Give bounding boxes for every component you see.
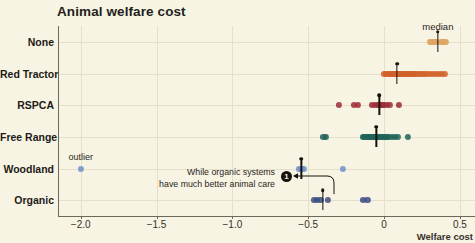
callout-line-2: have much better animal care [155, 179, 275, 191]
y-axis-tick-label: RSPCA [0, 99, 54, 111]
x-axis-tick-label: −2.0 [71, 219, 91, 230]
median-marker [377, 95, 381, 115]
callout-text: While organic systems have much better a… [155, 167, 275, 191]
chart-container: Animal welfare cost NoneRed TractorRSPCA… [0, 0, 475, 243]
median-line [396, 64, 397, 84]
median-dot [436, 30, 440, 34]
y-gridline [58, 105, 475, 106]
x-gridline [460, 26, 461, 216]
y-gridline [58, 137, 475, 138]
median-marker [436, 32, 440, 52]
median-marker [299, 159, 303, 179]
median-marker [374, 127, 378, 147]
y-axis-tick-label: Organic [0, 194, 54, 206]
y-axis-line [58, 26, 59, 216]
median-dot [395, 62, 399, 66]
y-gridline [58, 42, 475, 43]
median-dot [321, 188, 325, 192]
y-axis-tick-label: None [0, 36, 54, 48]
median-line [437, 32, 438, 52]
outlier-annotation-label: outlier [68, 152, 93, 162]
x-axis-tick-label: −1.0 [223, 219, 243, 230]
y-axis-tick-label: Free Range [0, 131, 54, 143]
median-line [379, 95, 380, 115]
x-axis-tick-label: 0.5 [453, 219, 467, 230]
median-line [322, 190, 323, 210]
median-dot [300, 157, 304, 161]
median-line [301, 159, 302, 179]
x-axis-tick-label: 0 [381, 219, 387, 230]
callout-line-1: While organic systems [155, 167, 275, 179]
callout-badge-1: 1 [281, 171, 292, 182]
x-gridline [81, 26, 82, 216]
x-axis-tick-label: −0.5 [298, 219, 318, 230]
x-axis-tick-label: −1.5 [147, 219, 167, 230]
x-gridline [384, 26, 385, 216]
median-dot [375, 125, 379, 129]
x-axis-line [58, 216, 475, 217]
median-line [376, 127, 377, 147]
y-axis-tick-label: Red Tractor [0, 68, 54, 80]
median-marker [321, 190, 325, 210]
y-axis-tick-label: Woodland [0, 163, 54, 175]
y-gridline [58, 200, 475, 201]
page-title: Animal welfare cost [57, 4, 186, 19]
x-gridline [308, 26, 309, 216]
x-axis-title: Welfare cost [417, 231, 473, 242]
median-marker [395, 64, 399, 84]
median-dot [378, 93, 382, 97]
